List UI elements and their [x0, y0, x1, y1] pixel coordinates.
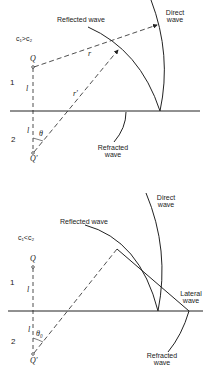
distance-upper-label: l — [26, 85, 28, 92]
lateral-wave-label: Lateral wave — [174, 290, 208, 304]
reflected-wave-arc — [88, 27, 160, 111]
reflected-wave-arc — [85, 225, 158, 311]
reflected-wave-label: Reflected wave — [60, 218, 108, 225]
distance-upper-label: l — [27, 286, 29, 293]
ray-r-prime-label: r' — [73, 90, 78, 97]
direct-wave-label: Direct wave — [151, 194, 181, 208]
medium-2-label: 2 — [11, 136, 15, 143]
refracted-wave-curve — [114, 112, 126, 142]
medium-1-label: 1 — [10, 279, 14, 286]
source-label-q: Q — [30, 255, 36, 262]
refracted-wave-label: Refracted wave — [140, 352, 184, 366]
angle-theta0-arc — [33, 338, 43, 342]
ray-r-label: r — [88, 50, 91, 57]
reflected-ray-dashed — [34, 249, 117, 353]
condition-label: c₁<c₂ — [18, 234, 34, 241]
source-point-q — [32, 66, 35, 69]
condition-label: c₁>c₂ — [16, 35, 32, 42]
source-label-q: Q — [30, 55, 36, 62]
distance-lower-label: l — [27, 127, 29, 134]
source-point-q — [32, 266, 35, 269]
direct-wave-arc — [146, 193, 162, 311]
angle-theta-label: θ — [39, 130, 43, 137]
angle-theta-arc — [33, 138, 43, 141]
medium-2-label: 2 — [11, 338, 15, 345]
reflected-ray-r-prime — [34, 50, 118, 152]
refracted-wave-curve — [168, 311, 189, 352]
reflected-wave-label: Reflected wave — [57, 16, 105, 23]
refracted-wave-label: Refracted wave — [91, 144, 135, 158]
direct-wave-label: Direct wave — [160, 9, 190, 23]
image-source-label: Q' — [30, 357, 38, 364]
medium-1-label: 1 — [10, 79, 14, 86]
image-source-label: Q' — [30, 155, 38, 162]
angle-theta0-label: θ₀ — [36, 330, 43, 337]
distance-lower-label: l — [28, 326, 30, 333]
direct-ray-r — [34, 25, 157, 67]
image-point-q-prime — [32, 353, 35, 356]
